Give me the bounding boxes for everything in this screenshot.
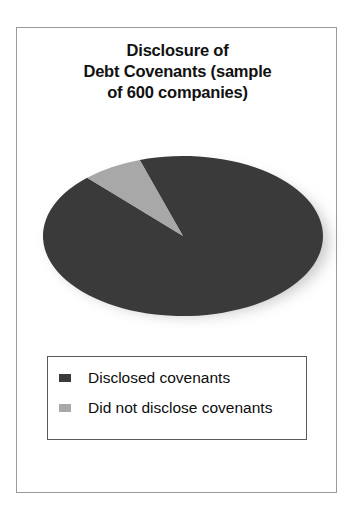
legend-swatch-light-icon <box>59 404 71 412</box>
legend-item-disclosed[interactable]: Disclosed covenants <box>59 368 230 388</box>
pie-slice-0[interactable] <box>43 156 323 316</box>
legend-item-not-disclosed[interactable]: Did not disclose covenants <box>59 398 272 418</box>
legend-label-disclosed: Disclosed covenants <box>88 368 230 388</box>
pie-plot-area <box>17 138 338 353</box>
chart-legend: Disclosed covenants Did not disclose cov… <box>47 356 307 440</box>
pie-graphic <box>43 156 323 316</box>
chart-title-line-1: Disclosure of <box>37 40 318 61</box>
chart-frame: Disclosure of Debt Covenants (sample of … <box>16 27 337 493</box>
legend-swatch-dark-icon <box>59 374 71 382</box>
legend-label-not-disclosed: Did not disclose covenants <box>88 398 272 418</box>
pie-slice-group <box>43 156 323 316</box>
pie-chart-figure: Disclosure of Debt Covenants (sample of … <box>0 0 355 514</box>
chart-title-line-2: Debt Covenants (sample <box>37 61 318 82</box>
chart-title: Disclosure of Debt Covenants (sample of … <box>37 40 318 103</box>
chart-title-line-3: of 600 companies) <box>37 82 318 103</box>
